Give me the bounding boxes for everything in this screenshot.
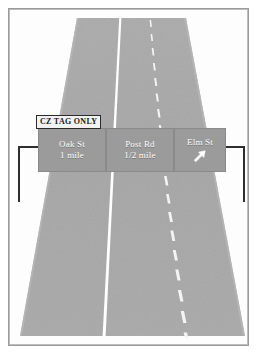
sign-panel-post-rd-distance: 1/2 mile [124, 150, 155, 161]
sign-panel-oak-st-distance: 1 mile [60, 150, 84, 161]
arrow-up-right-icon [192, 150, 208, 163]
gantry-support-right-post [243, 146, 245, 202]
picture-frame [8, 8, 249, 346]
scene-root: Oak St 1 mile Post Rd 1/2 mile Elm St CZ… [0, 0, 261, 358]
sign-panel-post-rd-destination: Post Rd [125, 139, 155, 150]
sign-panel-elm-st[interactable]: Elm St [174, 128, 226, 172]
gantry-support-left-post [18, 146, 20, 202]
sign-panel-elm-st-destination: Elm St [187, 137, 213, 148]
restriction-placard[interactable]: CZ TAG ONLY [36, 115, 101, 129]
sign-panel-oak-st[interactable]: Oak St 1 mile [38, 128, 106, 172]
sign-panel-post-rd[interactable]: Post Rd 1/2 mile [106, 128, 174, 172]
sign-panel-oak-st-destination: Oak St [59, 139, 85, 150]
overhead-guide-sign[interactable]: Oak St 1 mile Post Rd 1/2 mile Elm St [38, 128, 226, 172]
